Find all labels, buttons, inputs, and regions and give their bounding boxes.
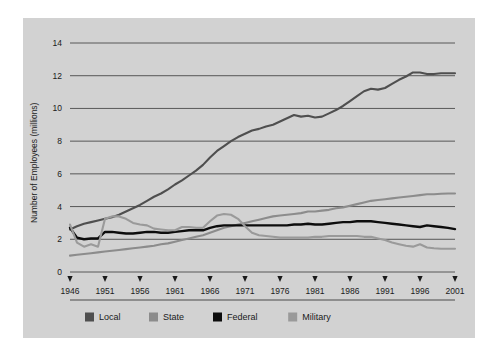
x-tick-label: 1986 — [341, 286, 360, 296]
x-tick-label: 1971 — [236, 286, 255, 296]
x-tick-label: 1946 — [61, 286, 80, 296]
x-tick-label: 1991 — [376, 286, 395, 296]
x-tick-marker — [277, 276, 282, 282]
y-tick-label: 6 — [57, 169, 62, 179]
x-tick-label: 1961 — [166, 286, 185, 296]
x-tick-label: 1956 — [131, 286, 150, 296]
legend-swatch-local — [85, 313, 94, 322]
y-tick-label: 8 — [57, 136, 62, 146]
x-tick-marker — [382, 276, 387, 282]
x-tick-labels: 1946195119561961196619711976198119861991… — [61, 286, 465, 296]
y-tick-label: 10 — [53, 103, 63, 113]
data-series-group — [70, 72, 455, 255]
x-tick-label: 1996 — [411, 286, 430, 296]
x-tick-marker — [207, 276, 212, 282]
legend-label-state: State — [163, 312, 184, 322]
x-tick-marker — [417, 276, 422, 282]
y-tick-label: 4 — [57, 202, 62, 212]
x-tick-marker — [312, 276, 317, 282]
x-tick-marker — [347, 276, 352, 282]
legend-swatch-military — [288, 313, 297, 322]
x-tick-marker — [452, 276, 457, 282]
x-tick-marker — [242, 276, 247, 282]
x-tick-label: 2001 — [446, 286, 465, 296]
x-tick-label: 1966 — [201, 286, 220, 296]
gridlines — [70, 43, 455, 272]
legend-swatch-federal — [213, 313, 222, 322]
y-axis-title: Number of Employees (millions) — [29, 102, 39, 223]
x-tick-label: 1976 — [271, 286, 290, 296]
x-tick-label: 1951 — [96, 286, 115, 296]
x-tick-marker — [102, 276, 107, 282]
legend-swatch-state — [149, 313, 158, 322]
y-tick-label: 2 — [57, 234, 62, 244]
y-tick-label: 14 — [53, 38, 63, 48]
chart-figure: Number of Employees (millions) 024681012… — [23, 18, 475, 338]
x-tick-marks — [67, 276, 457, 282]
x-tick-marker — [67, 276, 72, 282]
y-tick-labels: 02468101214 — [53, 38, 63, 277]
chart-legend: LocalStateFederalMilitary — [85, 312, 331, 322]
x-tick-marker — [172, 276, 177, 282]
series-line-local — [70, 72, 455, 229]
legend-label-military: Military — [302, 312, 331, 322]
legend-label-local: Local — [99, 312, 121, 322]
x-tick-label: 1981 — [306, 286, 325, 296]
x-tick-marker — [137, 276, 142, 282]
line-chart: Number of Employees (millions) 024681012… — [23, 18, 475, 338]
y-tick-label: 0 — [57, 267, 62, 277]
legend-label-federal: Federal — [227, 312, 258, 322]
y-tick-label: 12 — [53, 71, 63, 81]
